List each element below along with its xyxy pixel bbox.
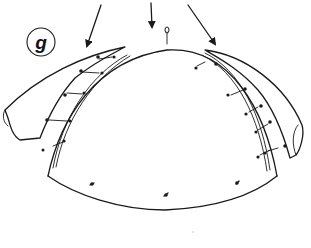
right-arrow: [188, 5, 215, 44]
right-annotations: [194, 62, 286, 159]
panel-label-text: g: [34, 32, 47, 53]
figure-drawing: g: [0, 0, 311, 248]
left-arrow: [87, 5, 101, 46]
stray-mark: [192, 231, 193, 232]
base-annotations: [90, 181, 239, 197]
center-arrow: [151, 3, 152, 27]
apex-marker: [165, 27, 169, 44]
dome-base: [48, 176, 277, 210]
dome-outline: [48, 50, 277, 176]
panel-label: g: [27, 28, 55, 56]
left-membrane-line: [53, 55, 127, 168]
right-flap-edge: [293, 125, 298, 155]
